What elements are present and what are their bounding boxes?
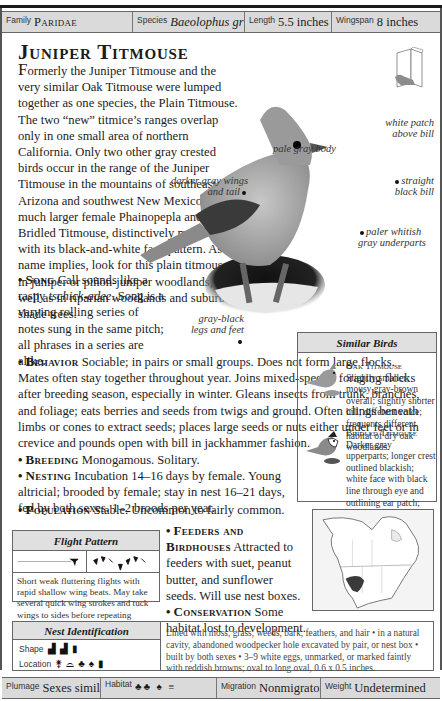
length-label: Length — [249, 15, 275, 25]
stump-icon: ♣ — [78, 658, 85, 669]
section-feeders-conservation: • Feeders and Birdhouses Attracted to fe… — [166, 523, 306, 636]
similar-bird-name: Bridled Titmouse — [346, 428, 436, 440]
log-icon: ⌓ — [66, 658, 74, 670]
breeding-heading: Breeding — [26, 452, 79, 467]
plumage-label: Plumage — [6, 681, 40, 691]
nest-box-icon: ▮ — [72, 643, 78, 654]
habitat-label: Habitat — [105, 679, 132, 689]
cavity-nest-icon: ▟ — [48, 643, 56, 654]
song-call: tschick-adee — [48, 289, 111, 303]
plumage-cell: Plumage Sexes similar — [2, 678, 101, 698]
family-cell: Family Paridae — [2, 12, 133, 32]
callout-pale-gray-body: pale gray body — [273, 143, 336, 154]
species-value: Baeolophus griseus — [170, 15, 245, 30]
section-feeders: • Feeders and Birdhouses Attracted to fe… — [166, 523, 306, 604]
weight-value: Undetermined — [354, 681, 426, 696]
oak-titmouse-thumbnail — [304, 363, 344, 397]
habitat-cell: Habitat ♣♣ ♠ ≡ — [101, 678, 217, 698]
feeders-heading: Feeders and Birdhouses — [166, 523, 244, 554]
scrub-habitat-icon: ♠ — [157, 681, 164, 692]
nest-identification-left: Nest Identification Shape ▟ ▟ ▮ Location… — [13, 622, 161, 670]
callout-straight-bill: straight black bill — [382, 175, 434, 197]
length-value: 5.5 inches — [278, 15, 329, 30]
page-frame-left — [0, 8, 2, 670]
callout-dot — [360, 231, 364, 235]
weight-label: Weight — [325, 681, 351, 691]
migration-cell: Migration Nonmigratory — [217, 678, 321, 698]
nest-box-icon: ▮ — [98, 658, 104, 669]
family-label: Family — [6, 15, 31, 25]
nesting-heading: Nesting — [26, 468, 72, 483]
nest-location-row: Location ⚵ ⌓ ♣ ♠ ▮ — [13, 655, 160, 670]
similar-birds-box: Similar Birds Oak Titmouse Slightly smal… — [297, 332, 437, 502]
habitat-icons: ♣♣ ♠ ≡ — [135, 681, 176, 692]
section-breeding: • Breeding Monogamous. Solitary. — [18, 452, 298, 468]
callout-darker-gray-wings: darker gray wings and tail — [164, 175, 248, 197]
flight-undulating-icon — [87, 551, 160, 572]
callout-legs: gray-black legs and feet — [184, 313, 244, 346]
top-rule — [0, 5, 442, 8]
status-info-bar: Plumage Sexes similar Habitat ♣♣ ♠ ≡ Mig… — [2, 677, 440, 699]
nest-identification-header: Nest Identification — [13, 622, 160, 640]
weight-cell: Weight Undetermined — [321, 678, 440, 698]
riparian-habitat-icon: ≡ — [168, 681, 176, 692]
migration-value: Nonmigratory — [259, 681, 321, 696]
length-cell: Length 5.5 inches — [245, 12, 332, 32]
deciduous-tree-icon: ♠ — [89, 658, 94, 669]
migration-label: Migration — [221, 681, 256, 691]
range-map — [312, 509, 434, 611]
field-guide-book-icon — [395, 47, 425, 89]
nest-shape-row: Shape ▟ ▟ ▮ — [13, 640, 160, 655]
nest-identification-description: Lined with moss, grass, weeds, bark, fea… — [161, 622, 433, 670]
flight-straight-icon — [13, 551, 87, 572]
wingspan-value: 8 inches — [377, 15, 418, 30]
juniper-titmouse-illustration — [140, 95, 360, 325]
woodland-habitat-icon: ♣♣ — [135, 681, 152, 692]
behavior-heading: Behavior — [26, 354, 79, 369]
section-population: • Population Stable. Uncommon to fairly … — [18, 502, 308, 518]
species-info-bar: Family Paridae Species Baeolophus griseu… — [2, 11, 440, 33]
similar-birds-header: Similar Birds — [298, 333, 436, 353]
wingspan-cell: Wingspan 8 inches — [332, 12, 440, 32]
nest-shape-label: Shape — [19, 644, 44, 654]
species-cell: Species Baeolophus griseus — [133, 12, 245, 32]
nest-location-label: Location — [19, 659, 51, 669]
population-heading: Population — [26, 502, 91, 517]
family-value: Paridae — [34, 15, 77, 30]
cavity-nest-icon: ▟ — [60, 643, 68, 654]
callout-underparts: paler whitish gray underparts — [358, 226, 436, 248]
song-heading: Song — [26, 272, 55, 287]
plumage-value: Sexes similar — [43, 681, 101, 696]
conservation-heading: Conservation — [174, 604, 252, 619]
flight-pattern-header: Flight Pattern — [13, 531, 159, 551]
callout-white-patch: white patch above bill — [378, 117, 434, 139]
bridled-titmouse-thumbnail — [304, 431, 344, 465]
flight-pattern-box: Flight Pattern Short weak fluttering fli… — [12, 530, 160, 602]
callout-dot — [238, 340, 242, 344]
similar-bird-bridled-titmouse: Bridled Titmouse Darker gray upperparts;… — [346, 428, 436, 521]
tree-cavity-icon: ⚵ — [55, 658, 62, 669]
wingspan-label: Wingspan — [336, 15, 374, 25]
species-label: Species — [137, 15, 167, 25]
callout-dot — [242, 191, 246, 195]
nest-identification-box: Nest Identification Shape ▟ ▟ ▮ Location… — [12, 621, 434, 671]
flight-pattern-diagram — [13, 551, 159, 573]
callout-dot — [395, 180, 399, 184]
similar-bird-name: Oak Titmouse — [346, 361, 436, 373]
